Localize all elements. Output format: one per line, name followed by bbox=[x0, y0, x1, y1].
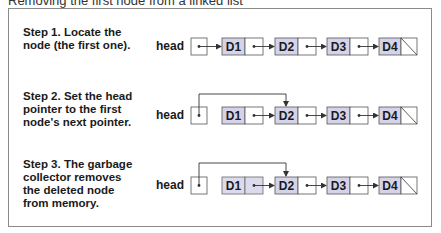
row-2: D1 D2 D3 D4 bbox=[191, 94, 417, 124]
linked-list-diagram: D1 D2 D3 D4 D1 D2 D3 bbox=[0, 0, 441, 233]
svg-text:D2: D2 bbox=[279, 109, 295, 123]
svg-text:D4: D4 bbox=[382, 40, 398, 54]
svg-text:D3: D3 bbox=[331, 109, 347, 123]
svg-text:D3: D3 bbox=[331, 179, 347, 193]
svg-text:D1: D1 bbox=[226, 179, 242, 193]
row-3: D1 D2 D3 D4 bbox=[191, 163, 417, 194]
svg-text:D4: D4 bbox=[382, 179, 398, 193]
svg-text:D2: D2 bbox=[279, 40, 295, 54]
svg-text:D4: D4 bbox=[382, 109, 398, 123]
node-d1-label: D1 bbox=[226, 40, 242, 54]
svg-text:D2: D2 bbox=[279, 179, 295, 193]
svg-text:D1: D1 bbox=[226, 109, 242, 123]
row-1: D1 D2 D3 D4 bbox=[191, 38, 417, 55]
svg-text:D3: D3 bbox=[331, 40, 347, 54]
